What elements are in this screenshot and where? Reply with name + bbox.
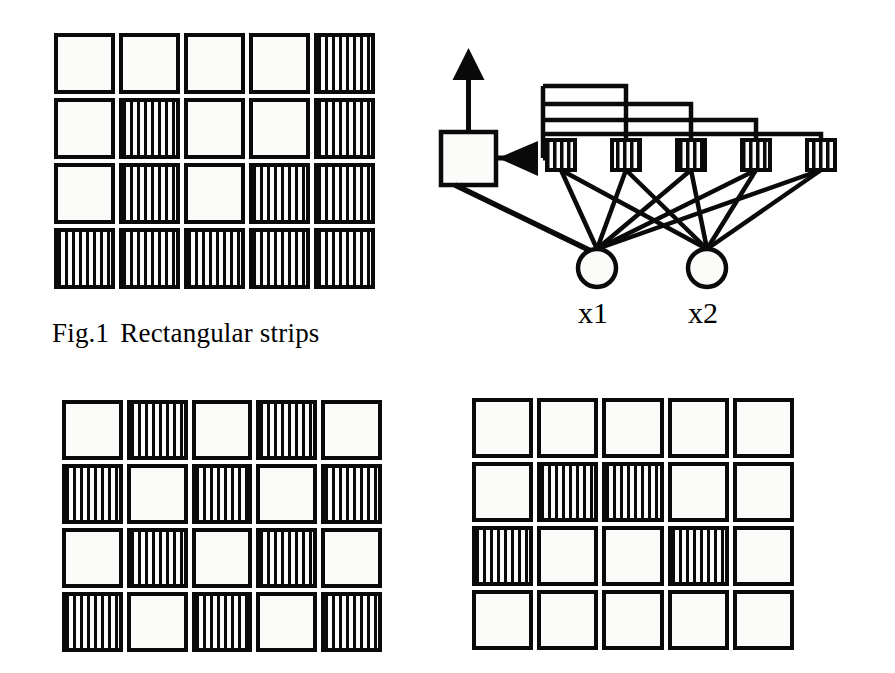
hidden-unit-box-4 <box>742 140 770 170</box>
strip-cell-striped <box>62 464 123 524</box>
network-svg <box>420 40 890 300</box>
neural-network-diagram <box>420 40 890 300</box>
strip-cell-plain <box>668 462 729 522</box>
strip-cell-striped <box>472 526 533 586</box>
figure-caption-text: Rectangular strips <box>120 318 319 348</box>
strip-cell-striped <box>249 228 310 289</box>
strip-cell-plain <box>668 590 729 650</box>
strip-cell-plain <box>733 462 794 522</box>
strip-cell-plain <box>184 163 245 224</box>
strip-cell-plain <box>249 33 310 94</box>
strip-cell-plain <box>537 590 598 650</box>
strip-cell-striped <box>249 163 310 224</box>
rectangular-strips-grid-bottom-right <box>472 398 794 650</box>
strip-cell-striped <box>192 464 253 524</box>
input-label-x1: x1 <box>578 296 608 330</box>
strip-cell-striped <box>256 400 317 460</box>
strip-cell-plain <box>256 592 317 652</box>
strip-cell-plain <box>127 464 188 524</box>
strip-cell-plain <box>62 400 123 460</box>
strip-cell-plain <box>668 398 729 458</box>
strip-cell-plain <box>472 590 533 650</box>
strip-cell-plain <box>54 163 115 224</box>
rectangular-strips-grid-bottom-left <box>62 400 382 652</box>
strip-cell-plain <box>249 98 310 159</box>
strip-cell-striped <box>119 228 180 289</box>
strip-cell-plain <box>119 33 180 94</box>
strip-cell-striped <box>127 528 188 588</box>
strip-cell-plain <box>184 33 245 94</box>
strip-cell-plain <box>537 398 598 458</box>
strip-cell-plain <box>472 398 533 458</box>
strip-cell-striped <box>537 462 598 522</box>
strip-cell-striped <box>314 98 375 159</box>
strip-cell-plain <box>733 590 794 650</box>
strip-cell-striped <box>314 33 375 94</box>
connection-unit5-to-input2 <box>707 170 821 249</box>
hidden-unit-box-3 <box>677 140 705 170</box>
output-summation-box <box>441 132 496 185</box>
output-arrow-head <box>453 48 485 80</box>
hidden-unit-box-5 <box>807 140 835 170</box>
input-node-x2 <box>688 249 726 287</box>
strip-cell-striped <box>602 462 663 522</box>
strip-cell-striped <box>321 592 382 652</box>
strip-cell-plain <box>472 462 533 522</box>
strip-cell-striped <box>62 592 123 652</box>
rectangular-strips-grid-top-left <box>54 33 375 289</box>
figure-number: Fig.1 <box>52 318 109 348</box>
strip-cell-striped <box>184 228 245 289</box>
strip-cell-plain <box>537 526 598 586</box>
hidden-unit-box-2 <box>612 140 640 170</box>
strip-cell-plain <box>184 98 245 159</box>
strip-cell-striped <box>119 163 180 224</box>
strip-cell-plain <box>733 398 794 458</box>
network-geometry <box>441 48 835 287</box>
strip-cell-striped <box>256 528 317 588</box>
strip-cell-plain <box>127 592 188 652</box>
feedback-bus-line-4 <box>543 120 756 140</box>
strip-cell-plain <box>321 400 382 460</box>
strip-cell-plain <box>602 526 663 586</box>
hidden-unit-box-1 <box>547 140 575 170</box>
strip-cell-plain <box>192 400 253 460</box>
strip-cell-striped <box>314 228 375 289</box>
strip-cell-striped <box>314 163 375 224</box>
strip-cell-plain <box>733 526 794 586</box>
input-label-x2: x2 <box>688 296 718 330</box>
strip-cell-striped <box>192 592 253 652</box>
strip-cell-striped <box>54 228 115 289</box>
strip-cell-plain <box>54 98 115 159</box>
input-node-x1 <box>578 249 616 287</box>
strip-cell-plain <box>602 398 663 458</box>
strip-cell-plain <box>256 464 317 524</box>
strip-cell-striped <box>119 98 180 159</box>
strip-cell-striped <box>127 400 188 460</box>
strip-cell-plain <box>602 590 663 650</box>
strip-cell-striped <box>668 526 729 586</box>
strip-cell-plain <box>192 528 253 588</box>
strip-cell-striped <box>321 464 382 524</box>
strip-cell-plain <box>321 528 382 588</box>
strip-cell-plain <box>54 33 115 94</box>
strip-cell-plain <box>62 528 123 588</box>
figure-caption: Fig.1Rectangular strips <box>52 318 320 349</box>
